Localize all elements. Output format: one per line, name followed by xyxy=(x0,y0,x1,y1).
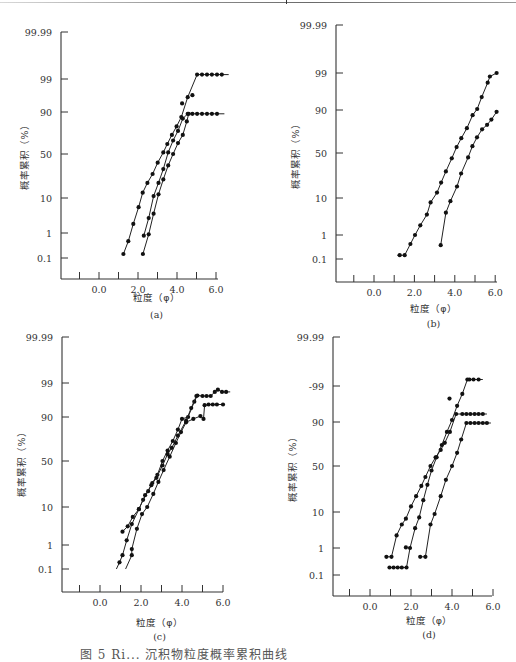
data-point xyxy=(428,464,432,468)
data-point xyxy=(194,394,198,398)
data-point xyxy=(120,553,124,557)
data-point xyxy=(220,390,224,394)
outlier-point xyxy=(180,101,184,105)
y-axis-label: 概率累积（%） xyxy=(290,119,301,188)
data-point xyxy=(465,126,469,130)
data-point xyxy=(480,95,484,99)
data-point xyxy=(137,507,141,511)
data-point xyxy=(384,555,388,559)
data-point xyxy=(216,388,220,392)
data-point xyxy=(161,177,165,181)
y-tick-label: 90 xyxy=(41,412,53,423)
y-tick-label: 1 xyxy=(318,543,324,554)
data-point xyxy=(459,171,463,175)
data-point xyxy=(211,402,215,406)
data-point xyxy=(495,71,499,75)
series-line xyxy=(390,380,483,568)
data-point xyxy=(175,124,179,128)
data-point xyxy=(160,463,164,467)
y-tick-label: 90 xyxy=(315,105,327,116)
data-point xyxy=(413,526,417,530)
chart-panel-a: 99.999990501010.10.02.04.06.0粒度（φ）(a)概率累… xyxy=(19,27,229,321)
x-tick-label: 0.0 xyxy=(91,284,106,295)
data-point xyxy=(481,412,485,416)
data-point xyxy=(184,420,188,424)
data-point xyxy=(198,414,202,418)
y-tick-label: 10 xyxy=(41,502,53,513)
data-point xyxy=(418,555,422,559)
y-tick-label: 99.99 xyxy=(25,27,52,38)
x-axis-label: 粒度（φ） xyxy=(410,303,456,314)
data-point xyxy=(419,484,423,488)
data-point xyxy=(179,430,183,434)
data-point xyxy=(404,565,408,569)
y-tick-label: 90 xyxy=(312,417,324,428)
data-point xyxy=(459,136,463,140)
y-tick-label: -99 xyxy=(309,381,324,392)
outlier-point xyxy=(190,93,194,97)
x-tick-label: 6.0 xyxy=(215,597,230,608)
x-tick-label: 0.0 xyxy=(366,287,381,298)
data-point xyxy=(464,412,468,416)
data-point xyxy=(168,455,172,459)
x-tick-label: 2.0 xyxy=(407,287,422,298)
series-line xyxy=(126,405,223,570)
data-point xyxy=(485,123,489,127)
data-point xyxy=(409,504,413,508)
data-point xyxy=(495,110,499,114)
data-point xyxy=(200,394,204,398)
x-tick-label: 0.0 xyxy=(92,597,107,608)
data-point xyxy=(156,161,160,165)
data-point xyxy=(466,155,470,159)
data-point xyxy=(190,112,194,116)
data-point xyxy=(201,417,205,421)
data-point xyxy=(209,394,213,398)
y-tick-label: 0.1 xyxy=(38,564,53,575)
data-point xyxy=(396,565,400,569)
data-point xyxy=(389,555,393,559)
y-tick-label: 10 xyxy=(40,193,52,204)
x-tick-label: 6.0 xyxy=(208,284,223,295)
data-point xyxy=(165,142,169,146)
data-point xyxy=(486,81,490,85)
data-point xyxy=(162,468,166,472)
data-point xyxy=(448,199,452,203)
data-point xyxy=(215,402,219,406)
outlier-point xyxy=(404,545,408,549)
data-point xyxy=(185,119,189,123)
data-point xyxy=(205,394,209,398)
data-point xyxy=(195,73,199,77)
data-point xyxy=(423,475,427,479)
data-point xyxy=(120,530,124,534)
y-tick-label: 10 xyxy=(315,193,327,204)
data-point xyxy=(210,112,214,116)
data-point xyxy=(403,253,407,257)
data-point xyxy=(154,476,158,480)
x-tick-label: 6.0 xyxy=(488,287,503,298)
data-point xyxy=(161,167,165,171)
data-point xyxy=(186,95,190,99)
data-point xyxy=(455,404,459,408)
data-point xyxy=(189,406,193,410)
series-sample-1 xyxy=(384,412,487,559)
series-sample-2 xyxy=(387,377,482,569)
data-point xyxy=(152,194,156,198)
data-point xyxy=(200,112,204,116)
data-point xyxy=(395,533,399,537)
data-point xyxy=(471,113,475,117)
y-tick-label: 99.99 xyxy=(26,332,53,343)
data-point xyxy=(489,118,493,122)
data-point xyxy=(455,184,459,188)
data-point xyxy=(131,222,135,226)
data-point xyxy=(488,74,492,78)
y-tick-label: 1 xyxy=(47,540,53,551)
data-point xyxy=(467,377,471,381)
chart-panel-d: 99.99-9990501010.10.02.04.06.0粒度（φ）(d)概率… xyxy=(287,332,501,641)
data-point xyxy=(439,494,443,498)
x-tick-label: 6.0 xyxy=(485,601,500,612)
data-point xyxy=(468,412,472,416)
data-point xyxy=(425,213,429,217)
data-point xyxy=(450,156,454,160)
data-point xyxy=(147,232,151,236)
